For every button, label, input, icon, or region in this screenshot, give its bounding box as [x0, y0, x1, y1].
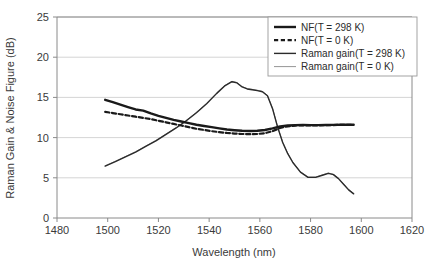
y-tick-label: 10 — [37, 132, 49, 144]
legend: NF(T = 298 K)NF(T = 0 K)Raman gain(T = 2… — [268, 17, 417, 76]
y-tick-label: 5 — [43, 172, 49, 184]
legend-label-2: Raman gain(T = 298 K) — [301, 48, 405, 59]
y-tick-label: 0 — [43, 212, 49, 224]
x-tick-label: 1560 — [248, 224, 272, 236]
y-tick-label: 25 — [37, 11, 49, 23]
y-tick-label: 15 — [37, 91, 49, 103]
chart-figure: 14801500152015401560158016001620 0510152… — [0, 0, 443, 267]
x-tick-labels-group: 14801500152015401560158016001620 — [45, 224, 424, 236]
x-axis-title: Wavelength (nm) — [192, 246, 275, 258]
legend-label-0: NF(T = 298 K) — [301, 22, 364, 33]
y-axis-title: Raman Gain & Noise Figure (dB) — [4, 37, 16, 198]
x-tick-label: 1540 — [197, 224, 221, 236]
y-tick-labels-group: 0510152025 — [37, 11, 49, 224]
x-tick-label: 1520 — [146, 224, 170, 236]
x-tick-label: 1480 — [45, 224, 69, 236]
x-tick-label: 1620 — [400, 224, 424, 236]
legend-label-3: Raman gain(T = 0 K) — [301, 61, 394, 72]
y-tick-label: 20 — [37, 51, 49, 63]
chart-canvas: 14801500152015401560158016001620 0510152… — [0, 0, 443, 267]
x-tick-label: 1500 — [95, 224, 119, 236]
legend-label-1: NF(T = 0 K) — [301, 35, 353, 46]
x-tick-label: 1600 — [349, 224, 373, 236]
series-line-0 — [105, 100, 354, 131]
x-tick-label: 1580 — [298, 224, 322, 236]
